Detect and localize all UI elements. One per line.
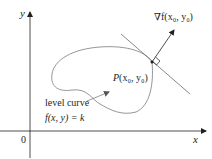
point-coords: (x₀, y₀) <box>119 72 148 84</box>
gradient-arrow <box>152 30 174 62</box>
level-curve-label: level curve <box>45 97 90 108</box>
point-letter: P <box>112 72 119 83</box>
right-angle-icon <box>152 57 160 65</box>
point-label: P(x₀, y₀) <box>112 72 148 84</box>
diagram-canvas: y x 0 ∇f(x₀, y₀) P(x₀, y₀) level curve f… <box>0 0 212 159</box>
point-p-dot <box>151 61 154 64</box>
origin-label: 0 <box>21 134 26 145</box>
gradient-label: ∇f(x₀, y₀) <box>154 11 193 23</box>
x-axis-label: x <box>192 133 198 145</box>
level-curve-equation: f(x, y) = k <box>45 112 85 124</box>
y-axis-label: y <box>19 7 25 19</box>
